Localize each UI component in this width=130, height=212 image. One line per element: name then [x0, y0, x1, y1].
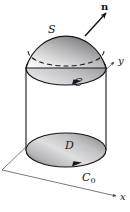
figure-caption	[0, 203, 130, 212]
label-curve-C0: C0	[82, 172, 96, 185]
label-disk-D: D	[65, 140, 74, 151]
label-surface-S: S	[48, 24, 56, 35]
label-curve-C: C	[74, 77, 82, 88]
cap-S-surface	[26, 36, 106, 68]
label-curve-C0-subscript: 0	[90, 176, 95, 185]
figure-canvas	[0, 0, 130, 212]
label-normal-n: n	[101, 2, 108, 12]
stokes-theorem-figure: S n y C D C0 x	[0, 0, 130, 212]
normal-vector-n	[85, 13, 106, 36]
label-axis-y: y	[118, 56, 124, 66]
axis-x-line	[2, 170, 116, 196]
normal-vector-shaft	[85, 13, 106, 36]
label-axis-x: x	[120, 192, 126, 202]
